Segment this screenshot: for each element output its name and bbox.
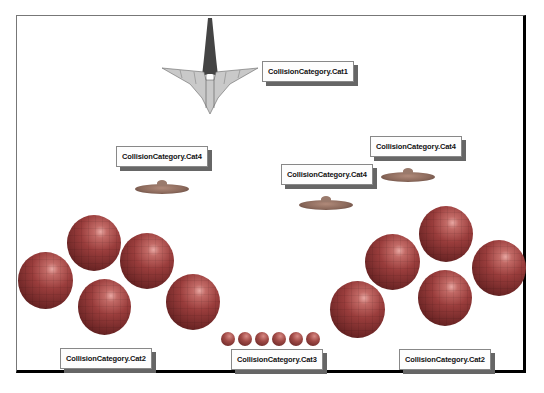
sphere bbox=[365, 234, 420, 290]
sphere bbox=[120, 233, 174, 289]
label-cat4-middle: CollisionCategory.Cat4 bbox=[281, 164, 373, 185]
sphere bbox=[18, 252, 73, 309]
disc-left bbox=[135, 184, 189, 194]
sphere bbox=[418, 270, 472, 326]
sphere bbox=[166, 274, 220, 330]
sphere bbox=[419, 206, 473, 262]
label-cat2-left: CollisionCategory.Cat2 bbox=[60, 348, 152, 369]
label-cat4-left: CollisionCategory.Cat4 bbox=[116, 146, 208, 167]
spaceship-icon bbox=[160, 18, 260, 114]
label-cat3: CollisionCategory.Cat3 bbox=[231, 349, 323, 370]
disc-right bbox=[381, 172, 435, 182]
small-sphere bbox=[272, 332, 286, 346]
small-sphere bbox=[306, 332, 320, 346]
small-sphere bbox=[255, 332, 269, 346]
small-sphere bbox=[289, 332, 303, 346]
sphere bbox=[330, 281, 385, 338]
sphere bbox=[67, 215, 121, 271]
sphere bbox=[472, 240, 526, 296]
label-cat4-right: CollisionCategory.Cat4 bbox=[370, 136, 462, 157]
small-sphere bbox=[238, 332, 252, 346]
disc-middle bbox=[299, 200, 353, 210]
small-sphere bbox=[221, 332, 235, 346]
label-cat2-right: CollisionCategory.Cat2 bbox=[399, 349, 491, 370]
label-cat1: CollisionCategory.Cat1 bbox=[262, 61, 354, 82]
sphere bbox=[78, 279, 131, 335]
